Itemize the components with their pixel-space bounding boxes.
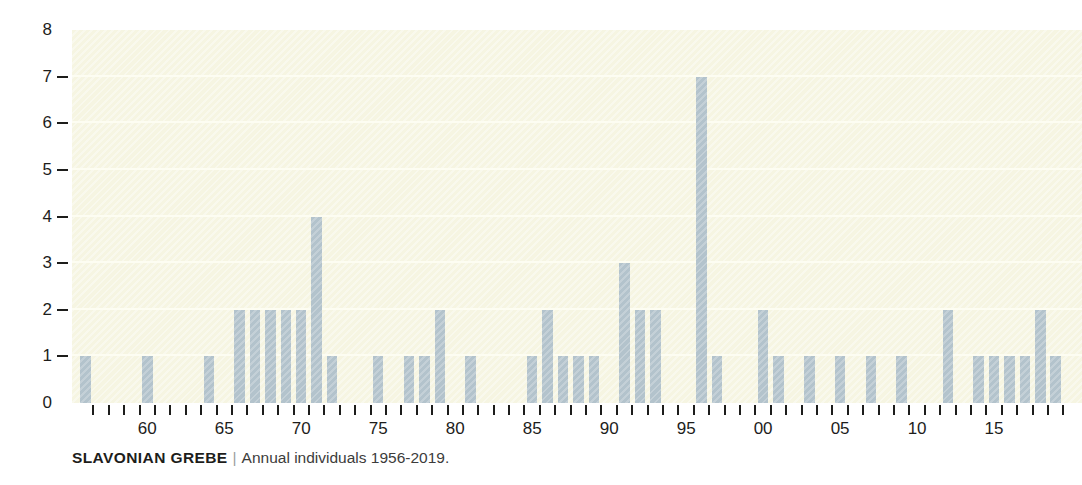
y-axis-tick: 5 xyxy=(0,160,72,180)
x-axis: 606570758085909500051015 xyxy=(72,403,1082,443)
x-axis-tick-mark xyxy=(185,405,187,415)
y-axis-tick: 2 xyxy=(0,300,72,320)
bar xyxy=(1035,310,1046,403)
x-axis-tick-mark xyxy=(370,405,372,415)
x-axis-tick-mark xyxy=(154,405,156,415)
x-axis-tick-mark xyxy=(739,405,741,415)
y-axis-tick-label: 7 xyxy=(43,67,52,87)
x-axis-tick-mark xyxy=(1016,405,1018,415)
x-axis-tick-mark xyxy=(431,405,433,415)
y-axis-tick-label: 6 xyxy=(43,113,52,133)
bar xyxy=(696,77,707,403)
x-axis-tick-mark xyxy=(92,405,94,415)
y-axis-tick-label: 2 xyxy=(43,300,52,320)
x-axis-tick-mark xyxy=(216,405,218,415)
y-axis-tick: 0 xyxy=(0,393,72,413)
x-axis-tick-mark xyxy=(600,405,602,415)
x-axis-tick-label: 80 xyxy=(446,419,465,439)
y-axis-tick-mark xyxy=(57,355,68,357)
y-axis-tick-mark xyxy=(57,169,68,171)
x-axis-tick-mark xyxy=(554,405,556,415)
x-axis-tick-mark xyxy=(939,405,941,415)
x-axis-tick-mark xyxy=(924,405,926,415)
x-axis-tick-mark xyxy=(277,405,279,415)
x-axis-tick-mark xyxy=(293,405,295,415)
bar xyxy=(542,310,553,403)
chart-caption: SLAVONIAN GREBE|Annual individuals 1956-… xyxy=(72,449,449,467)
bar xyxy=(465,356,476,403)
x-axis-tick-label: 60 xyxy=(138,419,157,439)
bar xyxy=(419,356,430,403)
bar xyxy=(650,310,661,403)
x-axis-tick-label: 70 xyxy=(292,419,311,439)
caption-description: Annual individuals 1956-2019. xyxy=(242,449,450,466)
y-axis-tick: 6 xyxy=(0,113,72,133)
x-axis-tick-mark xyxy=(200,405,202,415)
x-axis-tick-mark xyxy=(816,405,818,415)
bar xyxy=(573,356,584,403)
x-axis-tick-mark xyxy=(908,405,910,415)
x-axis-tick-mark xyxy=(955,405,957,415)
x-axis-tick-label: 90 xyxy=(600,419,619,439)
x-axis-tick-mark xyxy=(1062,405,1064,415)
y-axis-tick-label: 8 xyxy=(43,20,52,40)
slavonian-grebe-bar-chart: 012345678 606570758085909500051015 SLAVO… xyxy=(0,0,1082,485)
x-axis-tick-mark xyxy=(308,405,310,415)
x-axis-tick-label: 95 xyxy=(677,419,696,439)
y-axis-tick-mark xyxy=(57,76,68,78)
bar xyxy=(1020,356,1031,403)
y-axis: 012345678 xyxy=(0,0,72,403)
bar xyxy=(758,310,769,403)
bar xyxy=(265,310,276,403)
y-axis-tick: 8 xyxy=(0,20,72,40)
x-axis-tick-mark xyxy=(647,405,649,415)
x-axis-tick-mark xyxy=(693,405,695,415)
y-axis-tick-label: 4 xyxy=(43,207,52,227)
bar xyxy=(835,356,846,403)
bar xyxy=(943,310,954,403)
x-axis-tick-mark xyxy=(847,405,849,415)
bar xyxy=(619,263,630,403)
bar xyxy=(773,356,784,403)
x-axis-tick-mark xyxy=(523,405,525,415)
bar xyxy=(973,356,984,403)
x-axis-tick-mark xyxy=(139,405,141,415)
y-axis-tick-label: 0 xyxy=(43,393,52,413)
x-axis-tick-mark xyxy=(123,405,125,415)
bar xyxy=(404,356,415,403)
x-axis-tick-label: 65 xyxy=(215,419,234,439)
x-axis-tick-mark xyxy=(662,405,664,415)
bar xyxy=(234,310,245,403)
bar xyxy=(296,310,307,403)
x-axis-tick-mark xyxy=(354,405,356,415)
y-axis-tick-mark xyxy=(57,122,68,124)
bar-series xyxy=(72,30,1082,403)
x-axis-tick-mark xyxy=(323,405,325,415)
bar xyxy=(804,356,815,403)
bar xyxy=(250,310,261,403)
x-axis-tick-mark xyxy=(770,405,772,415)
y-axis-tick: 7 xyxy=(0,67,72,87)
bar xyxy=(327,356,338,403)
x-axis-tick-mark xyxy=(231,405,233,415)
x-axis-tick-mark xyxy=(169,405,171,415)
x-axis-tick-mark xyxy=(985,405,987,415)
bar xyxy=(435,310,446,403)
y-axis-tick: 1 xyxy=(0,346,72,366)
x-axis-tick-label: 85 xyxy=(523,419,542,439)
y-axis-tick-mark xyxy=(57,309,68,311)
y-axis-tick-label: 5 xyxy=(43,160,52,180)
x-axis-tick-mark xyxy=(477,405,479,415)
x-axis-tick-mark xyxy=(262,405,264,415)
bar xyxy=(1004,356,1015,403)
x-axis-tick-mark xyxy=(878,405,880,415)
x-axis-tick-mark xyxy=(724,405,726,415)
bar xyxy=(373,356,384,403)
x-axis-tick-label: 00 xyxy=(754,419,773,439)
y-axis-tick-label: 3 xyxy=(43,253,52,273)
x-axis-tick-mark xyxy=(616,405,618,415)
x-axis-tick-mark xyxy=(462,405,464,415)
x-axis-tick-label: 10 xyxy=(908,419,927,439)
bar xyxy=(527,356,538,403)
x-axis-tick-mark xyxy=(1032,405,1034,415)
